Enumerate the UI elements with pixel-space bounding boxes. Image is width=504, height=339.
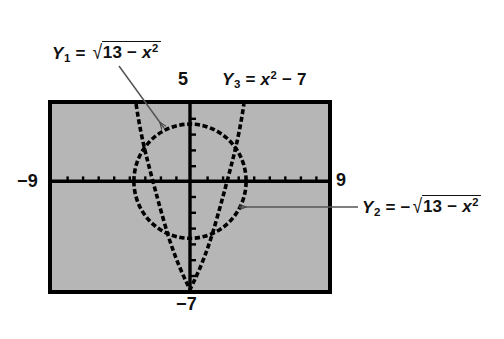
y3-index: 3 xyxy=(234,78,241,90)
equation-label-y2: Y2 = −√13 − x2 xyxy=(362,196,481,219)
y1-radicand-op: − xyxy=(127,43,137,62)
radical-sign-icon: √ xyxy=(413,196,423,216)
y1-index: 1 xyxy=(64,52,71,64)
equation-label-y3: Y3 = x2 − 7 xyxy=(222,70,307,90)
y2-name: Y xyxy=(362,198,374,217)
y2-radicand: 13 − x2 xyxy=(422,195,481,215)
axis-label-ymax: 5 xyxy=(178,70,188,88)
radical-sign-icon: √ xyxy=(92,42,102,62)
y2-radicand-exp: 2 xyxy=(472,196,478,208)
y1-radical-group: √13 − x2 xyxy=(91,42,161,62)
y1-radicand-var: x xyxy=(142,43,152,62)
y2-radicand-a: 13 xyxy=(423,197,442,216)
y1-equals: = xyxy=(76,44,86,63)
equation-label-y1: Y1 = √13 − x2 xyxy=(52,42,161,65)
y3-equals: = xyxy=(246,70,256,89)
y2-index: 2 xyxy=(374,206,381,218)
y3-constant: 7 xyxy=(297,70,307,89)
axis-label-xmin: −9 xyxy=(17,172,38,190)
y1-radicand-a: 13 xyxy=(103,43,122,62)
y3-var: x xyxy=(261,70,271,89)
y3-op: − xyxy=(282,70,292,89)
y2-radical-group: √13 − x2 xyxy=(411,196,481,216)
y3-name: Y xyxy=(222,70,234,89)
y2-equals: = xyxy=(386,198,396,217)
axis-label-xmax: 9 xyxy=(336,171,346,189)
y2-radicand-op: − xyxy=(447,197,457,216)
y2-sign: − xyxy=(401,198,411,217)
y1-radicand-exp: 2 xyxy=(152,42,158,54)
y1-radicand: 13 − x2 xyxy=(102,41,161,61)
axis-label-ymin: −7 xyxy=(176,295,197,313)
y2-radicand-var: x xyxy=(462,197,472,216)
y1-name: Y xyxy=(52,44,64,63)
y3-exp: 2 xyxy=(271,69,277,81)
